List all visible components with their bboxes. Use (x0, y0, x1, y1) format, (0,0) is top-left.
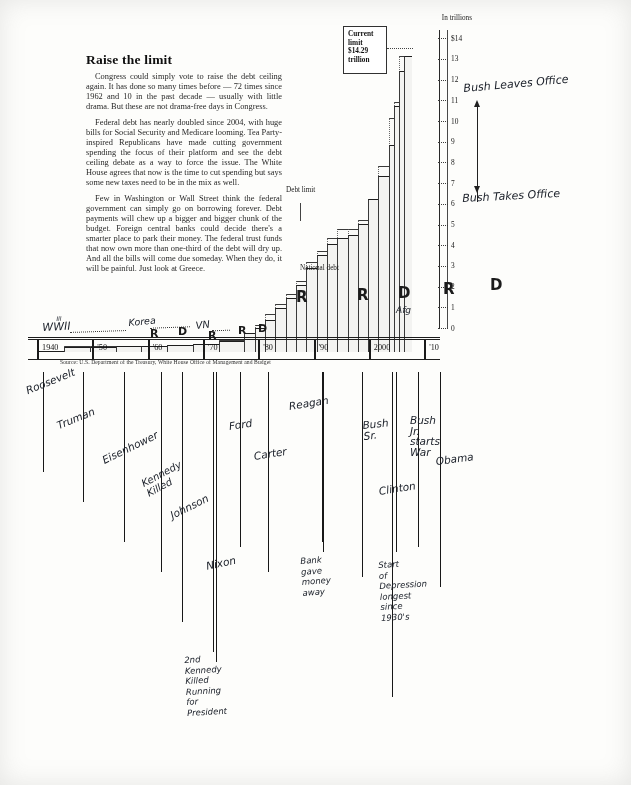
y-axis-tick-label: 5 (451, 220, 468, 229)
debt-limit-leader (300, 203, 301, 221)
chart-plot-area (28, 54, 440, 352)
x-axis-tick-label: '60 (153, 343, 163, 352)
note-johnson: Johnson (168, 492, 210, 521)
x-axis-separator (424, 340, 426, 359)
annotation-leader-line (418, 372, 419, 547)
y-axis-tick (438, 225, 448, 226)
x-axis-separator (314, 340, 316, 359)
note-roosevelt: Roosevelt (24, 366, 77, 397)
y-axis-tick-label: 13 (451, 54, 468, 63)
bush-takes-office-arrow-shaft (477, 130, 478, 188)
note-clinton: Clinton (378, 479, 416, 497)
annotation-leader-line (392, 372, 393, 697)
annotation-leader-line (362, 372, 363, 577)
y-axis-tick (438, 121, 448, 122)
x-axis-separator (369, 340, 371, 359)
y-axis-tick (438, 80, 448, 81)
bush-takes-office-arrow-head (474, 186, 480, 193)
party-letter-r-1990: R (357, 286, 369, 304)
y-axis-tick (438, 100, 448, 101)
party-letter-r-1955: R (150, 327, 158, 340)
y-axis-tick-label: 1 (451, 303, 468, 312)
x-axis-separator (92, 340, 94, 359)
x-axis-separator (203, 340, 205, 359)
x-axis-tick-label: 2000 (374, 343, 390, 352)
y-axis-tick-label: 9 (451, 137, 468, 146)
annotation-leader-line (268, 372, 269, 572)
note-depression: Start of Depression longest since 1930's (378, 558, 429, 623)
note-second-kennedy: 2nd Kennedy Killed Running for President (184, 653, 227, 718)
national-debt-step (337, 238, 347, 352)
annotation-leader-line (124, 372, 125, 542)
y-axis-tick-label: 10 (451, 117, 468, 126)
scanned-newspaper-page: Raise the limit Congress could simply vo… (0, 0, 631, 785)
y-axis-tick (438, 328, 448, 329)
annotation-leader-line (216, 372, 217, 662)
y-axis-tick-label: 7 (451, 179, 468, 188)
y-axis-tick (438, 204, 448, 205)
note-nixon: Nixon (205, 554, 237, 572)
party-letter-r-1970: R (208, 329, 216, 342)
bush-leaves-office-arrow-head (474, 100, 480, 107)
national-debt-step (368, 199, 378, 352)
callout-leader-line (387, 48, 413, 49)
x-axis-tick-label: '70 (208, 343, 218, 352)
x-axis-band: 1940'50'60'70'80'902000'10 (28, 339, 440, 360)
x-axis-separator (148, 340, 150, 359)
party-letter-d-1996: D (398, 284, 410, 302)
y-axis-label: In trillions (442, 14, 472, 22)
y-axis-tick-label: 3 (451, 261, 468, 270)
y-axis-tick (438, 183, 448, 184)
y-axis-tick-label: 11 (451, 96, 468, 105)
y-axis-tick (438, 59, 448, 60)
party-letter-r-1984: R (296, 288, 308, 306)
y-axis-tick (438, 245, 448, 246)
party-letter-d-1962: D (178, 325, 187, 338)
annotation-leader-line (83, 372, 84, 502)
x-axis-tick-label: '50 (97, 343, 107, 352)
note-kennedy-killed: Kennedy Killed (140, 460, 188, 499)
y-axis-tick-label: 8 (451, 158, 468, 167)
note-bush-jr: Bush Jr. starts War (410, 415, 440, 457)
debt-limit-label: Debt limit (286, 186, 316, 194)
annotation-leader-line (240, 372, 241, 547)
x-axis-separator (37, 340, 39, 359)
x-axis-tick-label: '10 (429, 343, 439, 352)
x-axis-tick-label: 1940 (42, 343, 58, 352)
annotation-leader-line (213, 372, 214, 652)
national-debt-step (327, 244, 337, 352)
party-letter-afg: Afg (396, 305, 411, 315)
y-axis-tick (438, 307, 448, 308)
party-letter-d-2010: D (490, 276, 502, 294)
annotation-leader-line (396, 372, 397, 552)
y-axis-tick-label: 0 (451, 324, 468, 333)
debt-chart: In trillions $14131211109876543210 (28, 22, 468, 352)
y-axis-tick (438, 38, 448, 39)
y-axis-tick (438, 266, 448, 267)
note-truman: Truman (55, 405, 96, 431)
note-carter: Carter (253, 445, 287, 462)
x-axis-tick-label: '80 (263, 343, 273, 352)
x-axis-separator (258, 340, 260, 359)
annotation-leader-line (182, 372, 183, 622)
callout-line: trillion (348, 56, 383, 65)
party-letter-d-1978: D (258, 322, 267, 335)
y-axis-tick-label: $14 (451, 34, 468, 43)
x-axis-line (28, 337, 440, 338)
national-debt-step (378, 176, 388, 352)
note-eisenhower: Eisenhower (100, 428, 160, 465)
x-axis-tick-label: '90 (319, 343, 329, 352)
note-bush-sr: Bush Sr. (362, 417, 390, 441)
y-axis-tick (438, 162, 448, 163)
current-limit-callout: Current limit $14.29 trillion (343, 26, 387, 74)
y-axis-tick (438, 142, 448, 143)
party-letter-r-1974: R (238, 324, 246, 337)
party-letter-r-2004: R (443, 280, 455, 298)
national-debt-label: National debt (300, 264, 358, 272)
wwii-label: WWII (42, 320, 71, 334)
annotation-leader-line (440, 372, 441, 587)
note-bank-gave-money-away: Bank gave money away (300, 554, 332, 598)
y-axis-tick-label: 4 (451, 241, 468, 250)
annotation-leader-line (323, 372, 324, 552)
note-ford: Ford (228, 417, 253, 432)
